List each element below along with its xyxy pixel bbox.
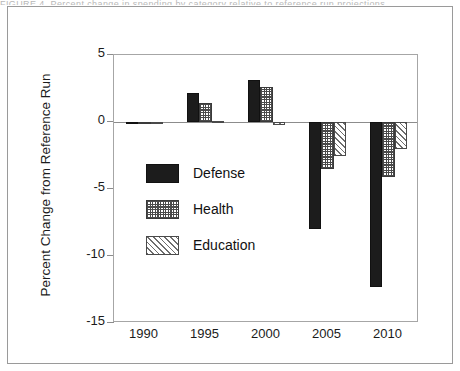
x-tick-label: 1990 [129,326,158,341]
bar-defense-1995 [187,93,200,122]
legend-swatch-defense [146,164,179,183]
y-tick-label-text: -5 [93,179,105,194]
bar-defense-2010 [370,122,383,287]
x-tick-label: 2000 [251,326,280,341]
bar-health-2005 [321,122,334,169]
bar-defense-2005 [309,122,322,229]
bar-defense-1990 [126,122,139,124]
bar-defense-2000 [248,80,261,122]
legend-swatch-health [146,200,179,219]
x-tick-label: 2005 [312,326,341,341]
bar-education-2010 [395,122,408,149]
bar-education-1990 [151,122,164,124]
y-tick-mark [107,322,114,323]
bar-health-1990 [138,122,151,124]
legend-label-defense: Defense [193,165,245,181]
y-tick-label-text: -10 [86,246,105,261]
plot-area: DefenseHealthEducation [113,54,418,322]
legend-item-education: Education [146,227,255,263]
bar-education-1995 [212,121,225,123]
legend-label-education: Education [193,237,255,253]
y-tick-label-text: -15 [86,313,105,328]
y-tick-label-text: 0 [98,112,105,127]
figure-container: FIGURE 4. Percent change in spending by … [0,0,460,371]
legend-label-health: Health [193,201,233,217]
legend-swatch-education [146,236,179,255]
y-tick-label-text: 5 [98,45,105,60]
figure-caption-fragment: FIGURE 4. Percent change in spending by … [0,0,460,5]
bar-health-2010 [382,122,395,177]
bar-health-2000 [260,87,273,122]
chart-legend: DefenseHealthEducation [146,155,255,263]
y-axis-title-text: Percent Change from Reference Run [38,50,53,320]
y-axis-title: Percent Change from Reference Run [0,0,9,50]
bar-health-1995 [199,103,212,122]
legend-item-health: Health [146,191,255,227]
bar-education-2005 [334,122,347,156]
x-tick-label: 1995 [190,326,219,341]
x-tick-label: 2010 [373,326,402,341]
bar-education-2000 [273,122,286,125]
legend-item-defense: Defense [146,155,255,191]
